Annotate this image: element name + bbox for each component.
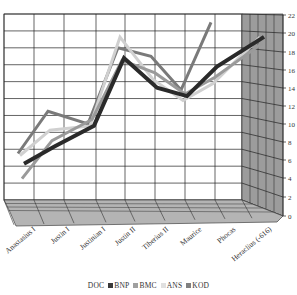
x-category-label: Maurice bbox=[178, 224, 203, 247]
y-tick-label: 4 bbox=[288, 175, 292, 183]
x-category-label: Justin II bbox=[113, 224, 138, 247]
x-category-label: Justinian I bbox=[78, 224, 108, 251]
legend-label: BNP bbox=[114, 281, 129, 290]
y-tick-label: 22 bbox=[288, 12, 296, 20]
y-tick-label: 0 bbox=[288, 213, 292, 221]
legend-label: BMC bbox=[139, 281, 156, 290]
y-tick-label: 6 bbox=[288, 157, 292, 165]
x-category-label: Heraclius (-616) bbox=[230, 224, 274, 263]
legend-item-kod: KOD bbox=[186, 281, 209, 290]
line-chart-3d: 0246810121416182022Anastasius IJustin IJ… bbox=[0, 0, 297, 295]
x-category-label: Justin I bbox=[49, 224, 72, 245]
legend-label: ANS bbox=[167, 281, 183, 290]
legend-label: KOD bbox=[192, 281, 209, 290]
y-tick-label: 12 bbox=[288, 103, 296, 111]
legend-item-ans: ANS bbox=[161, 281, 183, 290]
chart-canvas: 0246810121416182022Anastasius IJustin IJ… bbox=[0, 0, 297, 280]
legend-swatch bbox=[161, 283, 166, 288]
legend-swatch bbox=[133, 283, 138, 288]
y-tick-label: 2 bbox=[288, 194, 292, 202]
legend-item-doc: DOC bbox=[88, 281, 104, 290]
x-category-label: Tiberius II bbox=[140, 224, 170, 252]
y-tick-label: 16 bbox=[288, 67, 296, 75]
legend-swatch bbox=[186, 283, 191, 288]
chart-legend: DOCBNPBMCANSKOD bbox=[0, 281, 297, 290]
x-category-label: Phocas bbox=[215, 225, 237, 246]
y-tick-label: 14 bbox=[288, 85, 296, 93]
legend-swatch bbox=[108, 283, 113, 288]
y-tick-label: 10 bbox=[288, 121, 296, 129]
legend-item-bmc: BMC bbox=[133, 281, 156, 290]
legend-item-bnp: BNP bbox=[108, 281, 129, 290]
y-tick-label: 8 bbox=[288, 139, 292, 147]
x-category-label: Anastasius I bbox=[3, 224, 37, 255]
legend-label: DOC bbox=[88, 281, 104, 290]
y-tick-label: 20 bbox=[288, 30, 296, 38]
y-tick-label: 18 bbox=[288, 49, 296, 57]
